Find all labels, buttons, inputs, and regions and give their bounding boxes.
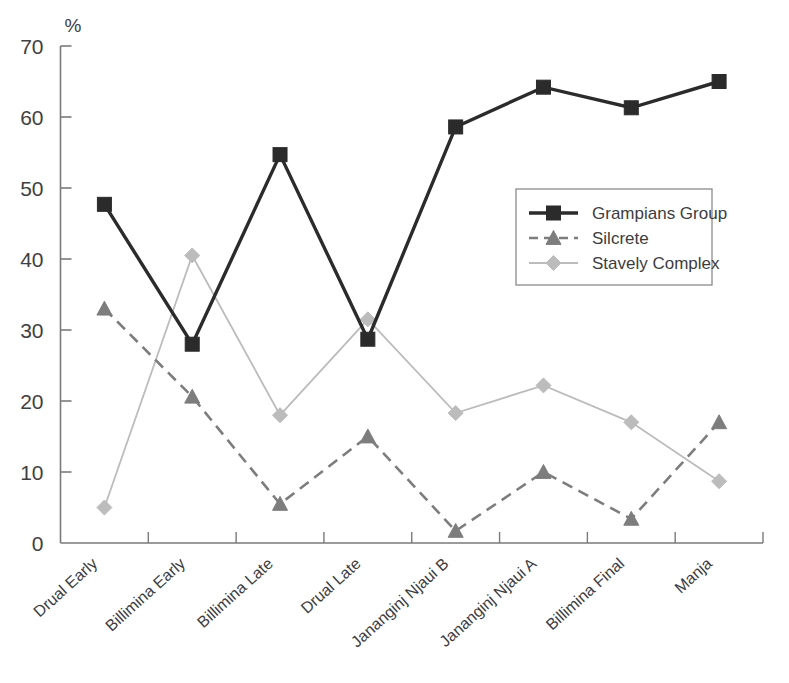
x-category-label: Billimina Final: [543, 555, 628, 634]
y-tick-label: 40: [20, 248, 43, 271]
x-category-label: Manja: [671, 555, 715, 597]
data-point-marker-triangle: [624, 511, 639, 525]
data-point-marker-square: [97, 197, 111, 211]
data-point-marker-triangle: [360, 429, 375, 443]
y-axis-unit-symbol: %: [65, 15, 82, 36]
data-point-marker-diamond: [624, 415, 639, 430]
legend-entry-label: Silcrete: [592, 229, 649, 248]
y-tick-label: 50: [20, 177, 43, 200]
data-point-marker-square: [624, 101, 638, 115]
data-point-marker-square: [185, 337, 199, 351]
data-point-marker-square: [536, 80, 550, 94]
data-series-group: [97, 75, 727, 538]
y-tick-labels: 010203040506070: [20, 35, 43, 555]
data-point-marker-square: [449, 120, 463, 134]
x-category-label: Billimina Late: [194, 555, 276, 631]
data-point-marker-square: [273, 148, 287, 162]
axes: [61, 46, 764, 543]
x-category-labels: Drual EarlyBillimina EarlyBillimina Late…: [30, 554, 715, 650]
x-category-label: Drual Early: [30, 555, 100, 621]
y-tick-label: 20: [20, 390, 43, 413]
data-point-marker-diamond: [712, 474, 727, 489]
data-point-marker-square: [361, 332, 375, 346]
x-category-label: Jananginj Njaui A: [436, 554, 540, 650]
legend-entry-label: Grampians Group: [592, 204, 727, 223]
data-point-marker-triangle: [536, 465, 551, 479]
chart-legend: Grampians GroupSilcreteStavely Complex: [516, 189, 727, 285]
line-chart: 010203040506070 % Drual EarlyBillimina E…: [0, 0, 789, 683]
data-point-marker-square: [712, 75, 726, 89]
data-point-marker-triangle: [97, 301, 112, 315]
data-point-marker-diamond: [185, 248, 200, 263]
legend-entry-label: Stavely Complex: [592, 254, 720, 273]
y-tick-label: 30: [20, 319, 43, 342]
y-tick-label: 10: [20, 461, 43, 484]
y-axis-unit-label: %: [65, 15, 82, 36]
y-tick-label: 70: [20, 35, 43, 58]
data-point-marker-triangle: [712, 415, 727, 429]
y-tick-label: 60: [20, 106, 43, 129]
x-category-label: Drual Late: [298, 555, 364, 617]
data-point-marker-diamond: [536, 378, 551, 393]
series-line: [104, 255, 719, 507]
data-point-marker-square: [547, 206, 561, 220]
x-category-label: Billimina Early: [102, 555, 188, 635]
data-point-marker-diamond: [97, 500, 112, 515]
series-stavely-complex: [97, 248, 727, 515]
chart-page: 010203040506070 % Drual EarlyBillimina E…: [0, 0, 789, 683]
y-tick-label: 0: [32, 532, 44, 555]
